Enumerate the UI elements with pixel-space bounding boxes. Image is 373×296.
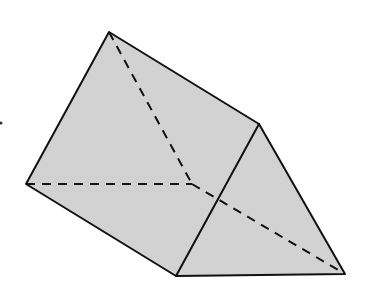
prism-diagram	[0, 0, 373, 296]
margin-mark	[0, 122, 3, 125]
prism-faces	[26, 32, 345, 276]
